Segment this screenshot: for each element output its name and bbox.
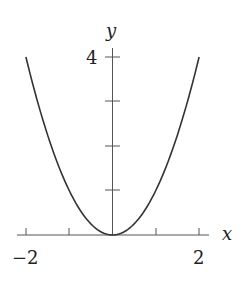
- y-tick-label-4: 4: [86, 47, 97, 68]
- x-tick-label-2: 2: [193, 247, 204, 268]
- y-axis-label: y: [105, 20, 117, 41]
- x-tick-label-neg2: −2: [12, 247, 39, 268]
- chart: y 4 x −2 2: [0, 0, 250, 285]
- x-axis-label: x: [222, 223, 232, 244]
